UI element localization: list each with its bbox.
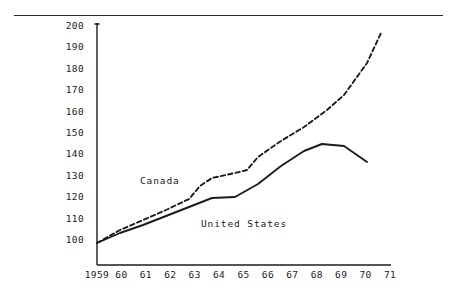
y-tick-150: 150 — [52, 128, 84, 138]
x-tick-71: 71 — [373, 270, 407, 280]
y-tick-120: 120 — [52, 192, 84, 202]
y-tick-110: 110 — [52, 214, 84, 224]
y-tick-200: 200 — [52, 21, 84, 31]
y-tick-130: 130 — [52, 171, 84, 181]
annotation-united-states: United States — [201, 219, 287, 229]
annotation-canada: Canada — [140, 176, 180, 186]
y-tick-190: 190 — [52, 42, 84, 52]
y-tick-100: 100 — [52, 235, 84, 245]
y-tick-180: 180 — [52, 64, 84, 74]
y-tick-140: 140 — [52, 149, 84, 159]
y-tick-160: 160 — [52, 107, 84, 117]
chart-figure: 100110120130140150160170180190200 195960… — [0, 0, 455, 290]
series-line-canada — [97, 33, 381, 243]
y-tick-170: 170 — [52, 85, 84, 95]
